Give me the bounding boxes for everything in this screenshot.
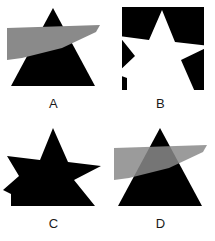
panel-b[interactable]: B <box>107 0 214 120</box>
panel-c-artwork <box>0 120 107 218</box>
panel-c-union-silhouette <box>3 128 101 206</box>
panel-d-label: D <box>107 216 214 232</box>
panel-d[interactable]: D <box>107 120 214 240</box>
panel-a-artwork <box>0 0 107 98</box>
panel-a-label: A <box>0 96 107 112</box>
panel-a[interactable]: A <box>0 0 107 120</box>
panel-b-label: B <box>107 96 214 112</box>
panel-d-artwork <box>107 120 214 218</box>
panel-b-artwork <box>107 0 214 98</box>
figure-root: A B C D <box>0 0 215 241</box>
panel-c-label: C <box>0 216 107 232</box>
panel-c[interactable]: C <box>0 120 107 240</box>
